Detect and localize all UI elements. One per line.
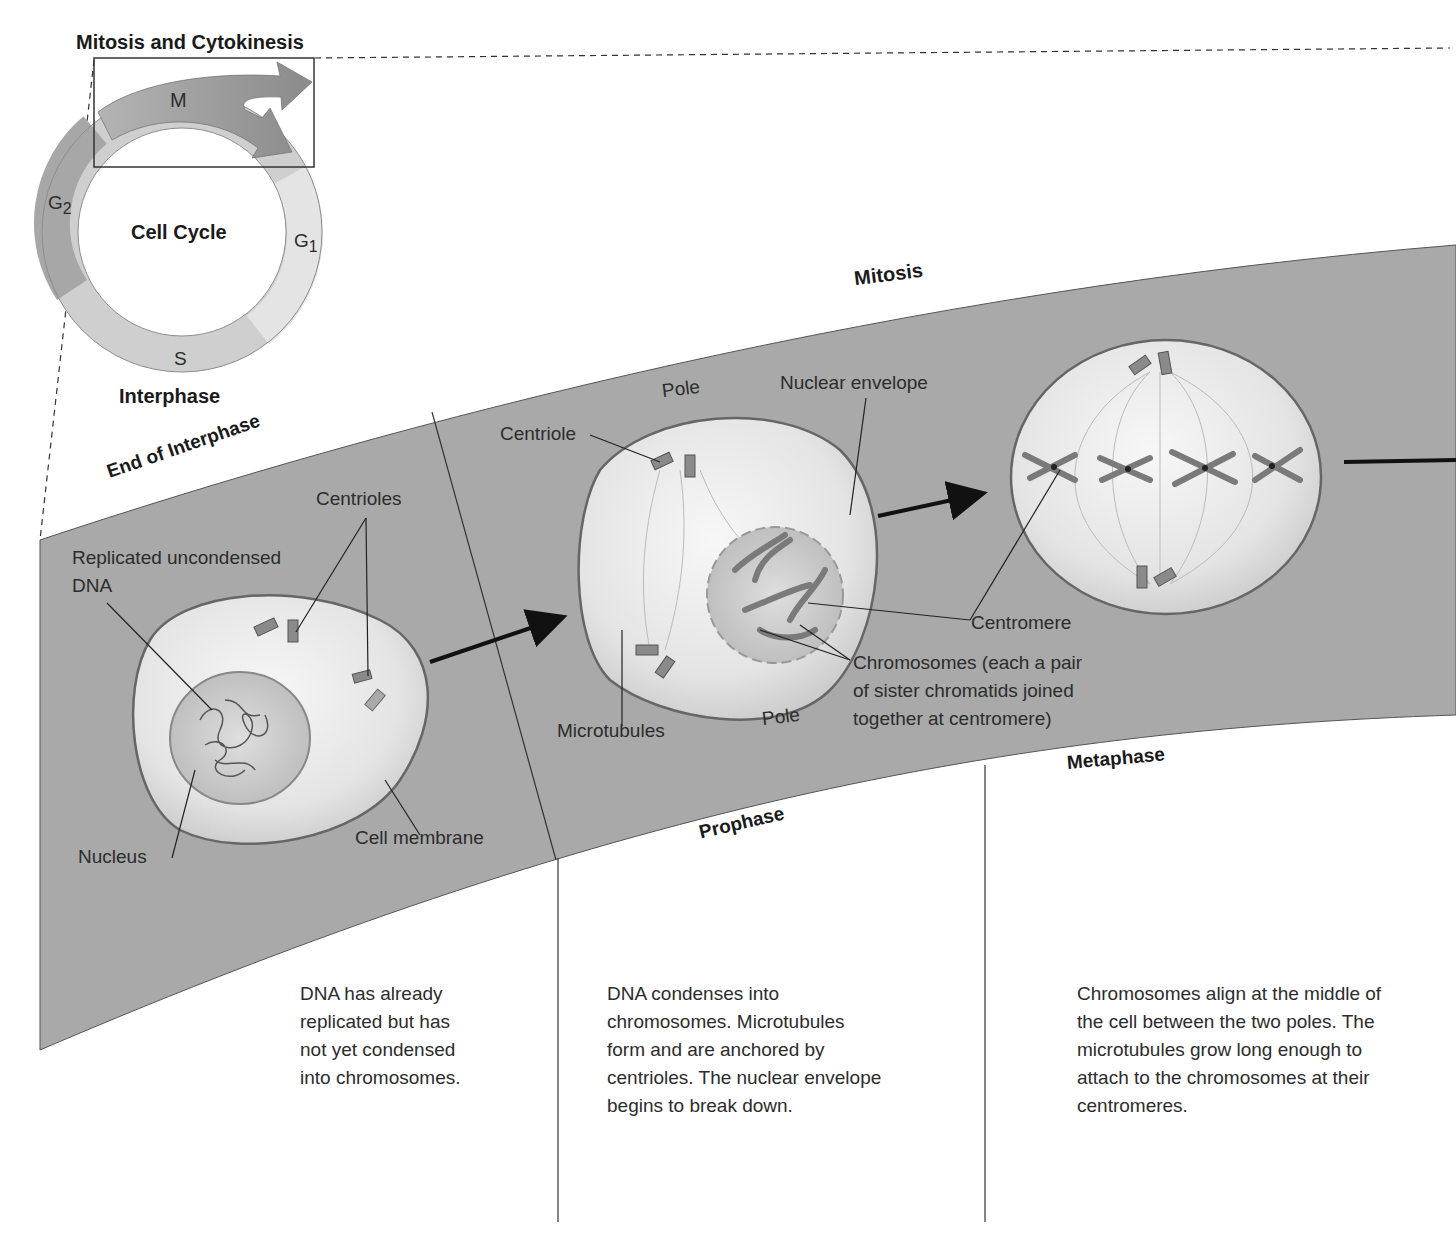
metaphase-cell [1011, 340, 1321, 614]
g2-main: G [48, 192, 63, 213]
g2-sub: 2 [63, 200, 72, 217]
cell-cycle-center-label: Cell Cycle [131, 220, 227, 244]
description-end-of-interphase: DNA has already replicated but has not y… [300, 980, 461, 1092]
zoom-guide-top [315, 48, 1450, 58]
label-centromere: Centromere [971, 612, 1071, 635]
phase-label-g2: G2 [48, 192, 72, 219]
phase-label-g1: G1 [294, 230, 318, 257]
label-chromosomes: Chromosomes (each a pair of sister chrom… [853, 649, 1082, 733]
label-nucleus: Nucleus [78, 846, 147, 869]
interphase-label: Interphase [119, 384, 220, 408]
description-metaphase: Chromosomes align at the middle of the c… [1077, 980, 1381, 1120]
label-nuclear-envelope: Nuclear envelope [780, 372, 928, 395]
description-prophase: DNA condenses into chromosomes. Microtub… [607, 980, 881, 1120]
label-replicated-dna: Replicated uncondensed DNA [72, 544, 281, 600]
prophase-cell [579, 418, 877, 720]
label-centriole: Centriole [500, 423, 576, 446]
g1-sub: 1 [309, 238, 318, 255]
figure-title: Mitosis and Cytokinesis [76, 30, 304, 54]
label-pole-top: Pole [661, 376, 702, 403]
label-microtubules: Microtubules [557, 720, 665, 743]
label-centrioles: Centrioles [316, 488, 402, 511]
label-cell-membrane: Cell membrane [355, 827, 484, 850]
label-pole-bottom: Pole [761, 704, 802, 731]
arrow-to-next [1344, 460, 1456, 462]
phase-label-m: M [170, 88, 187, 112]
phase-label-s: S [174, 348, 187, 371]
g1-main: G [294, 230, 309, 251]
